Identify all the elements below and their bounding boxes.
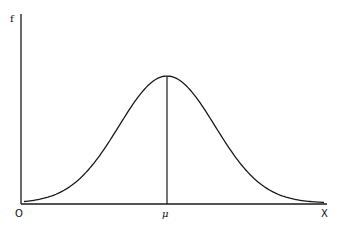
- mean-label: μ: [162, 209, 169, 219]
- normal-curve-diagram: [0, 0, 340, 227]
- x-axis-label: X: [321, 209, 328, 219]
- origin-label: O: [15, 209, 23, 219]
- y-axis-label: f: [10, 14, 14, 24]
- density-curve: [24, 76, 324, 202]
